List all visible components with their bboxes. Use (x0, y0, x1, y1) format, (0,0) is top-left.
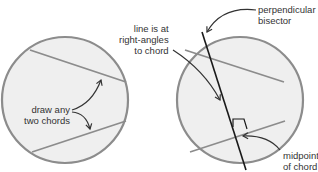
label-line: draw any (24, 104, 70, 115)
label-draw-chords: draw any two chords (24, 104, 70, 126)
label-line: perpendicular (258, 4, 316, 15)
label-right-angle: line is at right-angles to chord (119, 23, 169, 56)
label-line: of chord (283, 161, 318, 172)
label-line: right-angles (119, 34, 169, 45)
label-perpendicular-bisector: perpendicular bisector (258, 4, 316, 26)
left-circle (2, 37, 128, 163)
label-line: two chords (24, 115, 70, 126)
label-midpoint: midpoint of chord (283, 150, 318, 172)
right-circle (177, 37, 303, 163)
right-circle-group (173, 9, 303, 170)
arrow-bisector (207, 9, 256, 32)
label-line: midpoint (283, 150, 318, 161)
left-circle-group (2, 37, 128, 163)
label-line: bisector (258, 15, 316, 26)
label-line: to chord (119, 45, 169, 56)
label-line: line is at (119, 23, 169, 34)
